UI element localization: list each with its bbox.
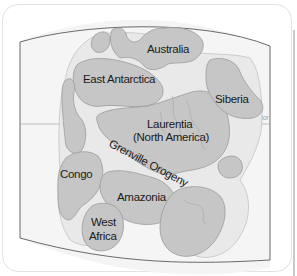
label-amazonia: Amazonia [117,191,167,203]
label-west-africa-line1: West [91,216,117,228]
label-congo: Congo [60,168,92,180]
label-laurentia: Laurentia [147,118,193,130]
label-australia: Australia [147,43,190,55]
continent-fragment-east [218,156,242,178]
label-siberia: Siberia [215,93,250,105]
rodinia-map: Equator Australia East Antarctica Siberi… [0,0,297,276]
label-east-antarctica: East Antarctica [83,73,156,85]
label-laurentia-subtitle: (North America) [133,131,209,143]
label-west-africa-line2: Africa [89,230,118,242]
